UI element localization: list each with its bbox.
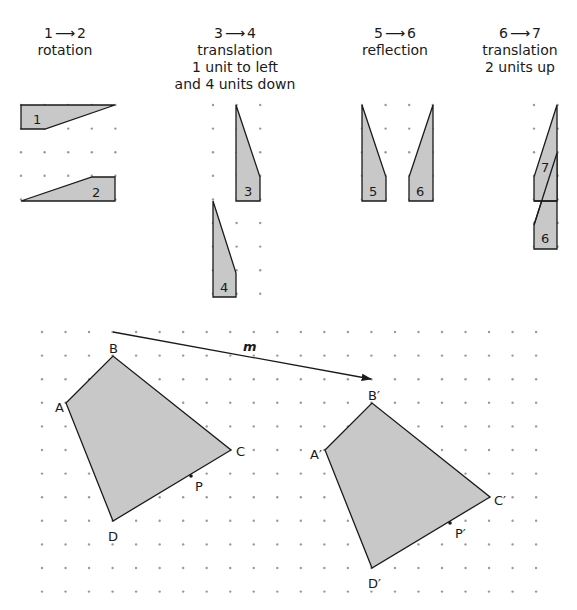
shape-1-label: 1 <box>33 112 41 127</box>
vector-m-label: m <box>243 339 257 354</box>
label-P-prime: P′ <box>455 526 466 541</box>
label-C: C <box>236 444 245 459</box>
shape-7 <box>534 105 557 201</box>
shape-2 <box>21 177 115 201</box>
label-A: A <box>55 400 64 415</box>
shape-6b-label: 6 <box>541 231 549 246</box>
label-D: D <box>108 529 118 544</box>
shape-5-label: 5 <box>369 184 377 199</box>
shape-2-label: 2 <box>92 185 100 200</box>
diagram-canvas: 1 2 3 4 5 6 7 6 m A B C D P A′ B′ C′ D′ … <box>0 0 577 610</box>
label-B-prime: B′ <box>368 388 380 403</box>
label-C-prime: C′ <box>494 493 506 508</box>
point-P-prime <box>448 521 452 525</box>
label-B: B <box>109 341 118 356</box>
shape-7-label: 7 <box>541 160 549 175</box>
shape-4-label: 4 <box>220 280 228 295</box>
shape-3-label: 3 <box>244 184 252 199</box>
point-P <box>189 474 193 478</box>
vector-m <box>113 332 371 379</box>
label-D-prime: D′ <box>368 576 381 591</box>
label-P: P <box>195 479 203 494</box>
label-A-prime: A′ <box>310 447 322 462</box>
shape-6a-label: 6 <box>416 184 424 199</box>
